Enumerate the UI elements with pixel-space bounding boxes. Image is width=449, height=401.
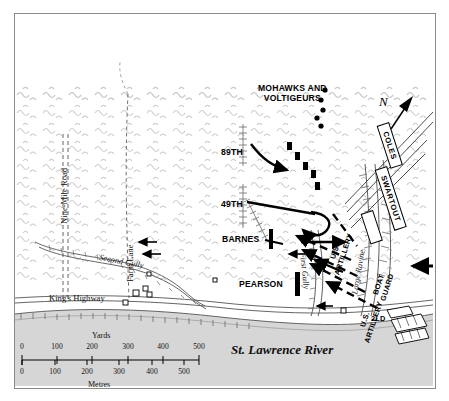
unit-label-2ld: 2LD (371, 314, 386, 323)
unit-marker-barnes (269, 229, 273, 249)
scale-tick-label: 200 (81, 367, 93, 376)
scale-caption-yards: Yards (92, 331, 110, 340)
unit-label-barnes: BARNES (222, 234, 260, 244)
unit-label-49th: 49TH (221, 199, 243, 209)
unit-marker-pearson (295, 272, 300, 296)
compass-label-n: N (379, 94, 388, 110)
scale-tick-label: 500 (178, 367, 190, 376)
scale-caption-metres: Metres (88, 380, 110, 389)
scale-tick-label: 100 (51, 342, 63, 351)
scale-tick-label: 400 (157, 342, 169, 351)
scale-tick-label: 500 (193, 342, 205, 351)
scale-ruler (18, 353, 208, 367)
scale-tick-label: 200 (86, 342, 98, 351)
label-mohawks-voltigeurs: MOHAWKS AND VOLTIGEURS (258, 83, 327, 103)
unit-label-89th: 89TH (221, 147, 243, 157)
label-nine-mile-road: Nine-Mile Road (59, 168, 69, 224)
scale-tick-label: 400 (146, 367, 158, 376)
scale-tick-label: 300 (122, 342, 134, 351)
scale-tick-label: 0 (16, 342, 28, 351)
scale-ticks-metres: 0100200300400500 (18, 367, 188, 377)
unit-label-pearson: PEARSON (239, 279, 283, 289)
label-farm-lane: Farm Lane (125, 245, 135, 282)
scale-tick-label: 0 (16, 367, 28, 376)
label-kings-highway: King's Highway (49, 293, 105, 303)
scale-tick-label: 100 (49, 367, 61, 376)
scale-tick-label: 300 (113, 367, 125, 376)
label-st-lawrence-river: St. Lawrence River (231, 342, 333, 358)
map-frame: MOHAWKS AND VOLTIGEURS N 89TH 49TH BARNE… (14, 13, 436, 389)
scale-ticks-yards: 0100200300400500 (18, 342, 203, 352)
